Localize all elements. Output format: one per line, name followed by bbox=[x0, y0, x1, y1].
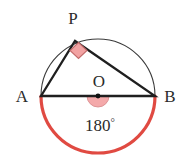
circle-theorem-diagram: P A O B 180° bbox=[0, 0, 190, 164]
center-label-O: O bbox=[93, 72, 105, 91]
vertex-label-B: B bbox=[164, 87, 175, 106]
angle-measure-number: 180 bbox=[85, 116, 111, 135]
vertex-label-P: P bbox=[68, 9, 77, 28]
degree-symbol-icon: ° bbox=[111, 116, 115, 128]
geometry-figure: P A O B 180° bbox=[0, 0, 190, 164]
vertex-label-A: A bbox=[16, 87, 29, 106]
angle-measure-label: 180° bbox=[85, 116, 115, 135]
center-point-dot-O bbox=[96, 94, 101, 99]
